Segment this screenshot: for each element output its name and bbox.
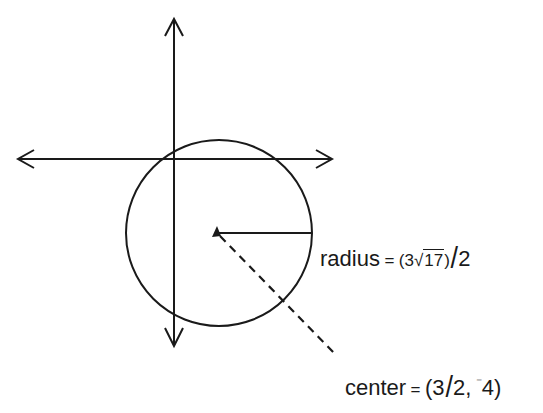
radius-label: radius = (3√17)/2 — [320, 241, 470, 271]
center-equals: = — [411, 380, 421, 399]
radius-coefficient: 3 — [404, 251, 413, 270]
radius-close-paren: ) — [444, 251, 450, 270]
fraction-slash: / — [450, 243, 458, 273]
radius-radicand: 17 — [423, 249, 444, 270]
diagram-canvas — [0, 0, 543, 413]
center-word: center — [345, 375, 406, 400]
center-comma: , — [465, 375, 471, 400]
radius-sqrt: √17 — [414, 252, 444, 269]
fraction-slash: / — [445, 372, 453, 402]
radius-word: radius — [320, 246, 380, 271]
radius-equals: = — [384, 251, 394, 270]
center-y: 4 — [482, 375, 494, 400]
center-x-numerator: 3 — [432, 375, 444, 400]
sqrt-icon: √ — [414, 251, 423, 270]
negative-sign: ⁻ — [476, 376, 482, 388]
center-label: center = (3/2, ⁻4) — [345, 370, 501, 400]
center-leader-line — [220, 236, 336, 355]
radius-denominator: 2 — [458, 246, 470, 271]
y-axis — [165, 19, 183, 346]
center-close-paren: ) — [494, 375, 501, 400]
center-x-denominator: 2 — [453, 375, 465, 400]
center-point — [212, 226, 221, 237]
